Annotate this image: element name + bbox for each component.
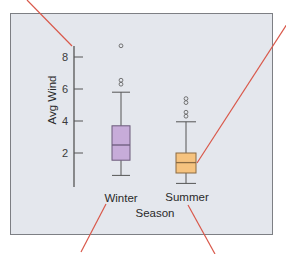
y-tick-label: 6 [62,83,68,95]
outlier-point [184,110,188,114]
box-winter [112,44,130,176]
outlier-point [184,97,188,101]
y-tick-label: 2 [62,147,68,159]
category-label-winter: Winter [104,192,137,204]
box-series [112,44,196,184]
outlier-point [184,114,188,118]
pointer-line-y-axis [27,0,72,46]
pointer-line-winter-label [81,204,106,252]
outlier-point [184,101,188,105]
outlier-point [119,78,123,82]
chart-figure: 2468 Avg Wind Winter Summer Season [0,0,286,254]
outlier-point [119,82,123,86]
box-summer [176,97,196,184]
x-axis-title: Season [135,207,174,219]
box-plot: 2468 Avg Wind Winter Summer Season [0,0,286,254]
y-axis-title: Avg Wind [46,75,58,124]
y-tick-label: 4 [62,115,68,127]
category-label-summer: Summer [165,191,209,203]
iqr-box [112,126,130,160]
pointer-line-summer-label [188,205,215,254]
y-axis: 2468 [62,46,83,187]
pointer-line-summer-box [197,24,286,163]
outlier-point [119,44,123,48]
y-tick-label: 8 [62,51,68,63]
